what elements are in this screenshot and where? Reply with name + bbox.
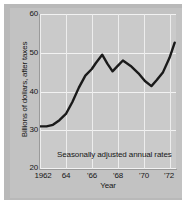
chart-figure: 60 50 40 30 20 1962 64 '66 '68 '70 '72 Y… — [0, 0, 186, 206]
x-tick-label-1972: '72 — [164, 171, 174, 180]
plot-area — [40, 14, 176, 169]
x-axis-title: Year — [40, 181, 176, 190]
y-axis-title-wrapper: Billions of dollars, after taxes — [11, 0, 23, 180]
x-tick-label-1966: '66 — [87, 171, 97, 180]
x-axis-spine — [39, 169, 177, 170]
y-axis-title: Billions of dollars, after taxes — [20, 15, 29, 165]
y-axis-spine — [39, 14, 40, 170]
x-tick-label-1970: '70 — [139, 171, 149, 180]
x-tick-label-1962: 1962 — [35, 171, 52, 180]
data-series-line — [40, 43, 175, 127]
x-tick-label-1968: '68 — [113, 171, 123, 180]
chart-annotation: Seasonally adjusted annual rates — [57, 150, 172, 159]
x-tick-label-1964: 64 — [62, 171, 71, 180]
data-line-svg — [40, 14, 176, 169]
